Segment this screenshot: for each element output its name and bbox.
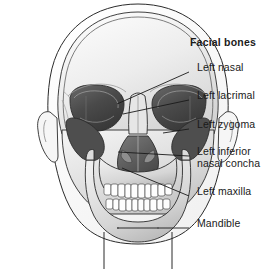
label-left-inferior-nasal-concha: Left inferior nasal concha [197,146,260,169]
nasal-bones [129,93,148,134]
upper-teeth [104,184,172,198]
lower-teeth [106,199,170,211]
left-ear [38,112,58,162]
label-left-zygoma: Left zygoma [197,119,255,131]
label-left-maxilla: Left maxilla [197,186,251,198]
label-left-lacrimal: Left lacrimal [197,90,255,102]
figure-title: Facial bones [190,37,256,49]
label-mandible: Mandible [197,218,240,230]
facial-bones-figure: Facial bones Left nasal Left lacrimal Le… [0,0,276,269]
label-left-nasal: Left nasal [197,62,244,74]
